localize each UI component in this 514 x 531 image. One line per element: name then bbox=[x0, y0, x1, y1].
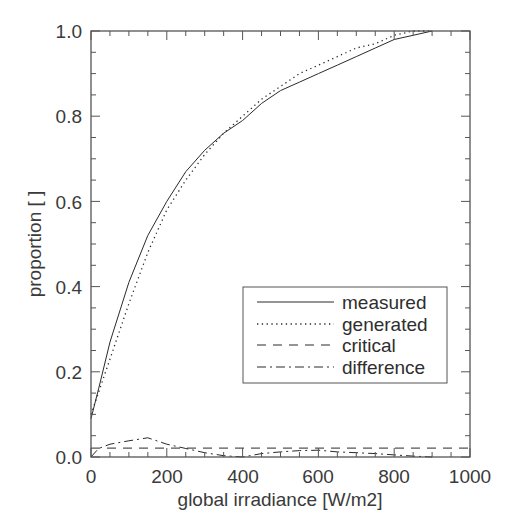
y-tick-label: 0.6 bbox=[56, 192, 82, 213]
y-tick-labels: 0.0 0.2 0.4 0.6 0.8 1.0 bbox=[56, 21, 83, 468]
x-tick-label: 0 bbox=[86, 466, 97, 487]
axis-ticks bbox=[91, 31, 470, 457]
y-tick-label: 0.4 bbox=[56, 277, 83, 298]
y-tick-label: 0.2 bbox=[56, 362, 82, 383]
plot-frame bbox=[91, 31, 470, 457]
legend-label-generated: generated bbox=[342, 314, 428, 335]
legend-label-critical: critical bbox=[342, 335, 396, 356]
x-axis-label: global irradiance [W/m2] bbox=[178, 489, 383, 510]
plot-lines bbox=[91, 31, 470, 457]
y-axis-label: proportion [ ] bbox=[24, 191, 45, 298]
legend-label-measured: measured bbox=[342, 292, 427, 313]
x-tick-labels: 0 200 400 600 800 1000 bbox=[86, 466, 491, 487]
legend: measured generated critical difference bbox=[243, 287, 447, 383]
chart: 0.0 0.2 0.4 0.6 0.8 1.0 0 200 400 600 80… bbox=[0, 0, 514, 531]
x-tick-label: 1000 bbox=[449, 466, 491, 487]
legend-label-difference: difference bbox=[342, 357, 425, 378]
x-tick-label: 400 bbox=[227, 466, 259, 487]
y-tick-label: 1.0 bbox=[56, 21, 82, 42]
y-tick-label: 0.8 bbox=[56, 106, 82, 127]
x-tick-label: 600 bbox=[302, 466, 334, 487]
x-tick-label: 200 bbox=[151, 466, 183, 487]
x-tick-label: 800 bbox=[378, 466, 410, 487]
y-tick-label: 0.0 bbox=[56, 447, 82, 468]
